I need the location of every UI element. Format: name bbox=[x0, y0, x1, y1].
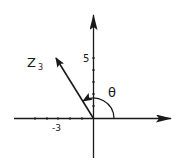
angle-label: θ bbox=[108, 85, 116, 100]
vector-subscript: 3 bbox=[38, 63, 43, 72]
vector-label: Z3 bbox=[27, 55, 43, 72]
vector-z3 bbox=[56, 58, 94, 119]
argand-diagram: Z3 5 -3 θ bbox=[0, 0, 181, 167]
y-tick-label: 5 bbox=[83, 53, 89, 64]
x-tick-label: -3 bbox=[52, 123, 61, 133]
